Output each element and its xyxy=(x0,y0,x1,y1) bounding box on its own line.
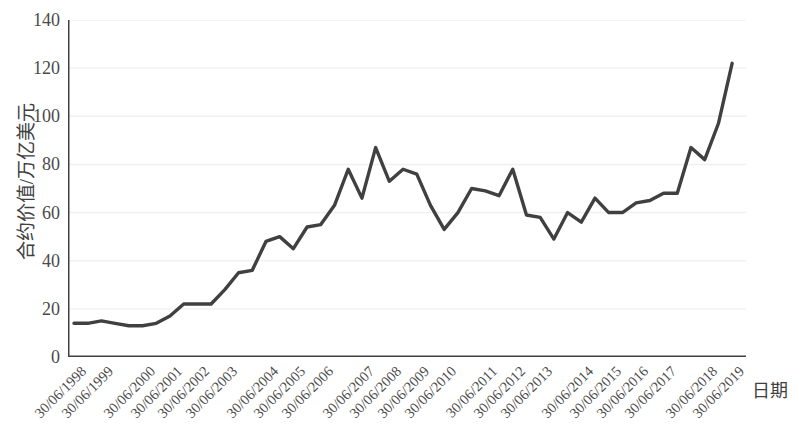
y-tick-label: 40 xyxy=(14,252,60,270)
y-tick-label: 120 xyxy=(14,59,60,77)
line-chart: 合约价值/万亿美元 020406080100120140 30/06/19983… xyxy=(0,0,796,443)
y-tick-label: 140 xyxy=(14,11,60,29)
data-line xyxy=(74,63,732,325)
x-axis-title: 日期 xyxy=(752,376,788,402)
y-tick-label: 60 xyxy=(14,204,60,222)
y-tick-label: 80 xyxy=(14,155,60,173)
chart-svg xyxy=(68,20,746,357)
x-axis-tick-labels: 30/06/199830/06/199930/06/200030/06/2001… xyxy=(0,357,796,443)
y-tick-label: 100 xyxy=(14,107,60,125)
plot-area xyxy=(68,20,746,357)
y-tick-label: 20 xyxy=(14,300,60,318)
